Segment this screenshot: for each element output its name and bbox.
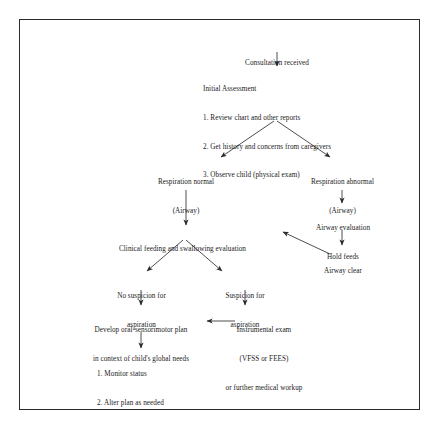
develop-plan-line-0: Develop oral-sensorimotor plan <box>58 326 224 336</box>
node-monitor-and-alter-plan: 1. Monitor status 2. Alter plan as neede… <box>97 351 227 427</box>
node-clinical-feeding-evaluation: Clinical feeding and swallowing evaluati… <box>85 226 280 274</box>
monitor-line-1: 2. Alter plan as needed <box>97 399 227 409</box>
no-suspicion-line-0: No suspicion for <box>99 292 184 302</box>
node-airway-clear: Airway clear <box>305 248 381 296</box>
initial-assessment-line-1: 1. Review chart and other reports <box>203 114 383 124</box>
respiration-normal-line-1: (Airway) <box>141 207 231 217</box>
initial-assessment-line-2: 2. Get history and concerns from caregiv… <box>203 143 383 153</box>
instrumental-exam-line-0: Instrumental exam <box>205 326 323 336</box>
monitor-line-0: 1. Monitor status <box>97 370 227 380</box>
airway-evaluation-line-0: Airway evaluation <box>298 224 388 234</box>
node-respiration-normal: Respiration normal (Airway) <box>141 159 231 236</box>
initial-assessment-line-0: Initial Assessment <box>203 85 383 95</box>
airway-clear-line-0: Airway clear <box>305 267 381 277</box>
suspicion-line-0: Suspicion for <box>205 292 285 302</box>
flowchart-page: Consultation received Initial Assessment… <box>0 0 440 427</box>
clinical-feeding-line-0: Clinical feeding and swallowing evaluati… <box>85 245 280 255</box>
respiration-normal-line-0: Respiration normal <box>141 178 231 188</box>
respiration-abnormal-line-0: Respiration abnormal <box>295 178 390 188</box>
